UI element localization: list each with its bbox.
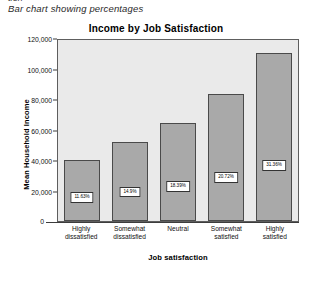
y-axis-tick-label: 20,000: [31, 188, 52, 195]
y-axis-zero-label: 0: [18, 218, 44, 225]
x-axis-category-label: Highlysatisfied: [251, 225, 299, 242]
x-axis-category-labels: HighlydissatisfiedSomewhatdissatisfiedNe…: [57, 225, 299, 251]
x-axis-category-label: Somewhatdissatisfied: [105, 225, 153, 242]
bar-slot: 31.36%: [250, 40, 298, 221]
plot-frame: 11.63%14.9%18.39%20.72%31.36%: [57, 39, 299, 222]
x-axis-category-label-line: Highly: [251, 225, 299, 233]
y-axis-tick-label: 40,000: [31, 158, 52, 165]
bar[interactable]: [64, 160, 100, 221]
x-axis-category-label: Neutral: [154, 225, 202, 233]
bar-data-label: 14.9%: [119, 187, 140, 198]
y-axis-tick-label: 60,000: [31, 127, 52, 134]
figure-caption: Bar chart showing percentages: [8, 3, 143, 14]
bar-slot: 18.39%: [154, 40, 202, 221]
bar[interactable]: [112, 142, 148, 221]
x-axis-category-label-line: Somewhat: [202, 225, 250, 233]
bar-data-label: 11.63%: [70, 192, 93, 203]
x-axis-category-label-line: dissatisfied: [105, 233, 153, 241]
bar-slot: 14.9%: [106, 40, 154, 221]
x-axis-title: Job satisfaction: [57, 253, 299, 262]
x-axis-category-label-line: Somewhat: [105, 225, 153, 233]
bar-chart-figure: Income by Job Satisfaction Mean Househol…: [0, 20, 312, 282]
bar[interactable]: [208, 94, 244, 221]
bar-slot: 20.72%: [202, 40, 250, 221]
x-axis-category-label-line: satisfied: [202, 233, 250, 241]
bar-slot: 11.63%: [58, 40, 106, 221]
bar-data-label: 31.36%: [262, 160, 286, 171]
bar-data-label: 18.39%: [166, 181, 190, 192]
y-axis-tick-label: 120,000: [27, 36, 52, 43]
x-axis-category-label-line: Highly: [57, 225, 105, 233]
y-axis-ticks: 20,00040,00060,00080,000100,000120,000: [18, 39, 52, 222]
x-axis-category-label-line: dissatisfied: [57, 233, 105, 241]
y-axis-tick-label: 80,000: [31, 97, 52, 104]
bar-data-label: 20.72%: [214, 172, 238, 183]
bar[interactable]: [160, 123, 196, 221]
x-axis-category-label: Somewhatsatisfied: [202, 225, 250, 242]
chart-title: Income by Job Satisfaction: [0, 23, 312, 34]
bar[interactable]: [256, 53, 292, 221]
x-axis-line: [50, 222, 299, 223]
x-axis-category-label-line: satisfied: [251, 233, 299, 241]
y-axis-tick-label: 100,000: [27, 66, 52, 73]
x-axis-category-label: Highlydissatisfied: [57, 225, 105, 242]
x-axis-category-label-line: Neutral: [154, 225, 202, 233]
plot-area: 11.63%14.9%18.39%20.72%31.36%: [58, 40, 298, 221]
